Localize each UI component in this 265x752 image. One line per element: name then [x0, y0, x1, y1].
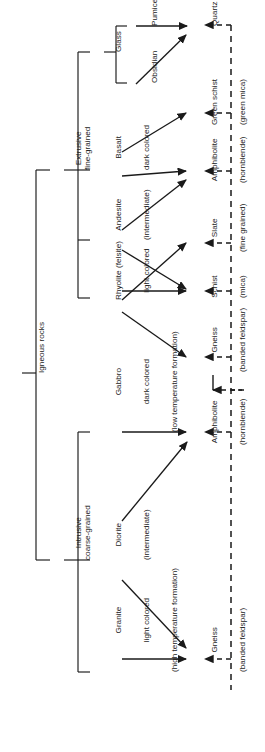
label-basalt: Basalt dark colored [95, 125, 170, 170]
label-diorite: Diorite (intermediate) [95, 509, 170, 560]
label-slate: Slate (fine grained) [191, 204, 265, 252]
label-rhyolite: Rhyolite (felsite) light colored [95, 241, 170, 300]
label-gneiss-upper: Gneiss (banded feldspar) [191, 308, 265, 372]
label-green-schist: Green schist (green mica) [191, 79, 265, 125]
label-andesite: Andesite (intermediate) [95, 189, 170, 240]
label-igneous-rocks: Igneous rocks [18, 322, 65, 373]
rock-classification-diagram: Igneous rocks Extrusive fine-grained Int… [0, 0, 265, 752]
label-obsidian: Obsidian [131, 51, 178, 83]
label-pumice: Pumice [131, 0, 178, 26]
label-schist: Schist (mica) [191, 275, 265, 298]
igneous-rocks-text: Igneous rocks [37, 322, 46, 373]
metamorphic-group-connector [213, 375, 244, 390]
label-glass: Glass [95, 31, 142, 52]
label-gabbro: Gabbro dark colored (low temperature for… [95, 331, 198, 432]
label-granite: Granite light colored (high temperature … [95, 568, 198, 672]
label-metamorphic-rocks: Metamorphic rocks [248, 386, 265, 455]
extrusive-branch [64, 52, 90, 298]
label-amphibolite-upper: Amphibolite (hornblende) [191, 137, 265, 184]
arrow-basalt-amphibolite [122, 171, 186, 176]
label-quartz: Quartz [191, 1, 238, 26]
extrusive-text: Extrusive fine-grained [74, 127, 93, 170]
label-gneiss-lower: Gneiss (banded feldspar) [191, 608, 265, 672]
intrusive-text: Intrusive coarse-grained [74, 505, 93, 560]
